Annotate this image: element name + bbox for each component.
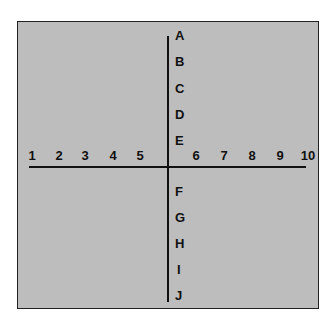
x-label-1: 1 <box>28 148 35 163</box>
coordinate-grid-panel: 1 2 3 4 5 6 7 8 9 10 A B C D E F G H I J <box>17 21 319 309</box>
y-label-f: F <box>175 184 183 199</box>
x-label-7: 7 <box>220 148 227 163</box>
y-label-e: E <box>175 133 184 148</box>
x-label-4: 4 <box>109 148 116 163</box>
y-label-c: C <box>175 81 184 96</box>
y-label-h: H <box>175 236 184 251</box>
x-label-2: 2 <box>55 148 62 163</box>
y-label-d: D <box>175 107 184 122</box>
x-label-10: 10 <box>301 148 315 163</box>
y-label-a: A <box>175 28 184 43</box>
y-label-j: J <box>175 288 182 303</box>
x-label-6: 6 <box>192 148 199 163</box>
y-label-b: B <box>175 54 184 69</box>
y-label-i: I <box>177 262 181 277</box>
x-label-9: 9 <box>276 148 283 163</box>
y-label-g: G <box>175 210 185 225</box>
x-label-3: 3 <box>81 148 88 163</box>
x-label-8: 8 <box>248 148 255 163</box>
x-label-5: 5 <box>136 148 143 163</box>
vertical-axis-line <box>167 36 169 302</box>
